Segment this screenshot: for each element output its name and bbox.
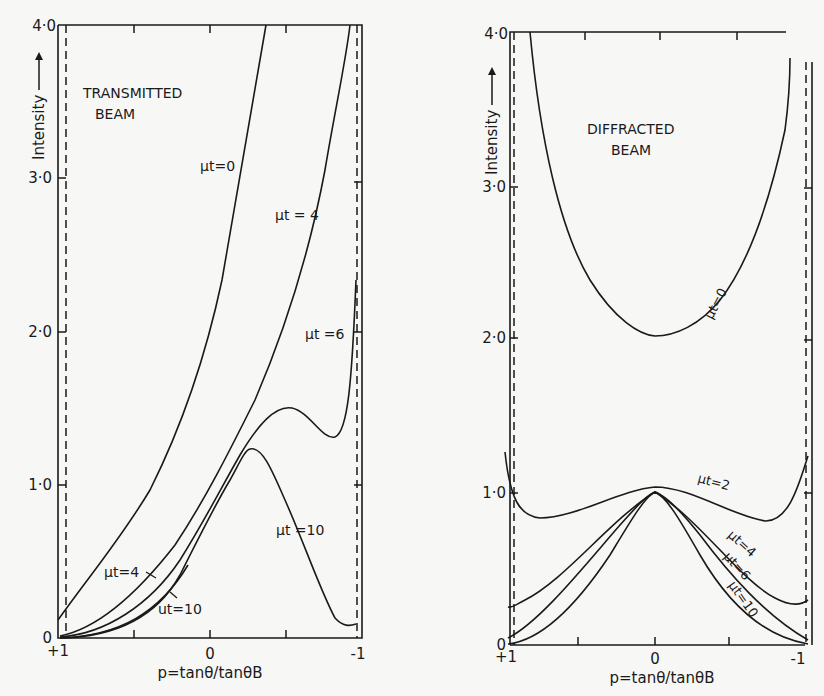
left-xtick-0: 0 [205,645,215,663]
label-diffracted-mu0: μt=0 [701,286,730,322]
right-title-line2: BEAM [611,142,651,158]
label-transmitted-mu10: μt =10 [276,522,324,538]
label-diffracted-mu2: μt=2 [696,470,731,493]
left-title-line2: BEAM [95,106,135,122]
label-diffracted-mu0-group: μt=0 [701,286,730,322]
label-diffracted-mu2-group: μt=2 [696,470,731,493]
right-xtick-plus1: +1 [495,648,517,666]
left-ytick-2: 2·0 [28,323,52,341]
curve-diffracted-mu4 [508,492,808,607]
arrow-mu10-icon [170,592,177,598]
left-ytick-1: 1·0 [28,476,52,494]
right-ytick-4: 4·0 [484,25,508,43]
label-transmitted-mu4-lower: μt=4 [104,564,139,580]
right-y-axis-label-group: Intensity [483,67,501,175]
left-y-axis-label-group: Intensity [30,52,48,160]
label-transmitted-mu6: μt =6 [305,326,345,342]
curve-transmitted-mu0 [58,25,266,620]
curve-transmitted-mu10 [60,449,356,638]
curve-diffracted-mu2 [505,452,808,521]
right-title-line1: DIFFRACTED [587,121,674,137]
right-ytick-3: 3·0 [482,178,506,196]
curve-diffracted-mu0 [530,32,790,336]
right-y-axis-label: Intensity [483,110,501,175]
diffracted-beam-chart: 0 1·0 2·0 3·0 4·0 +1 0 -1 p=tanθ/tanθB I… [482,25,812,687]
left-xtick-plus1: +1 [47,642,69,660]
figure: 0 1·0 2·0 3·0 4·0 +1 0 -1 p=tanθ/tanθB I… [0,0,824,696]
transmitted-beam-chart: 0 1·0 2·0 3·0 4·0 +1 0 -1 p=tanθ/tanθB I… [28,17,365,682]
right-x-axis-label: p=tanθ/tanθB [610,669,715,687]
right-y-ticks [510,187,812,493]
right-y-arrowhead-icon [488,67,496,75]
label-transmitted-mu4: μt = 4 [275,207,319,223]
right-xtick-minus1: -1 [791,650,806,668]
left-ytick-4: 4·0 [32,17,56,35]
left-y-axis-label: Intensity [30,95,48,160]
right-ytick-2: 2·0 [482,329,506,347]
curve-diffracted-mu6 [508,492,808,640]
label-transmitted-mu10-lower: ut=10 [158,601,202,617]
left-ytick-3: 3·0 [28,169,52,187]
left-x-axis-label: p=tanθ/tanθB [158,664,263,682]
label-transmitted-mu0: μt=0 [200,158,235,174]
left-y-arrowhead-icon [35,52,43,60]
left-title-line1: TRANSMITTED [82,85,182,101]
right-ytick-1: 1·0 [482,484,506,502]
left-xtick-minus1: -1 [351,645,366,663]
right-xtick-0: 0 [650,650,660,668]
curve-diffracted-mu10 [508,492,808,644]
